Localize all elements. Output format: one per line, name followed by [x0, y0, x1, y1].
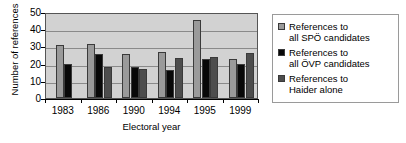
x-tick-mark-3: [152, 99, 153, 103]
bar-1999-series-1: [237, 64, 245, 98]
y-axis-tick-labels: 01020304050: [17, 13, 41, 99]
bar-group-1983: [46, 14, 82, 98]
y-tick-label-50: 50: [17, 8, 41, 18]
bar-group-1994: [153, 14, 189, 98]
bar-1994-series-1: [166, 70, 174, 98]
bar-1994-series-0: [158, 52, 166, 98]
x-tick-mark-2: [116, 99, 117, 103]
legend-item-1[interactable]: References toall ÖVP candidates: [278, 47, 394, 69]
bar-1995-series-1: [202, 59, 210, 98]
bar-group-1999: [224, 14, 260, 98]
x-tick-mark-4: [187, 99, 188, 103]
y-tick-mark-20: [41, 65, 45, 66]
x-tick-label-1999: 1999: [218, 105, 262, 116]
legend-label-0: References toall SPÖ candidates: [289, 21, 370, 43]
y-tick-mark-50: [41, 13, 45, 14]
bar-group-1995: [188, 14, 224, 98]
bar-group-1986: [82, 14, 118, 98]
bar-chart-figure: Number of references 01020304050 Elector…: [0, 0, 406, 143]
legend-label-1: References toall ÖVP candidates: [289, 47, 370, 69]
legend-item-0[interactable]: References toall SPÖ candidates: [278, 21, 394, 43]
legend-swatch-icon-1: [278, 49, 285, 56]
legend-label-2: References toHaider alone: [289, 73, 348, 95]
bars-layer: [46, 14, 257, 98]
bar-group-1990: [117, 14, 153, 98]
legend-swatch-icon-0: [278, 23, 285, 30]
y-tick-label-30: 30: [17, 42, 41, 52]
plot-area: [45, 13, 258, 99]
x-tick-mark-0: [45, 99, 46, 103]
bar-1990-series-2: [139, 69, 147, 98]
bar-1999-series-0: [229, 59, 237, 98]
legend-item-2[interactable]: References toHaider alone: [278, 73, 394, 95]
y-tick-mark-0: [41, 99, 45, 100]
bar-1986-series-0: [87, 44, 95, 98]
bar-1990-series-0: [122, 54, 130, 98]
x-tick-mark-1: [81, 99, 82, 103]
y-tick-mark-10: [41, 82, 45, 83]
x-axis-title: Electoral year: [45, 121, 258, 132]
bar-1999-series-2: [246, 53, 254, 98]
bar-1983-series-1: [64, 64, 72, 98]
bar-1986-series-2: [104, 67, 112, 98]
y-tick-label-10: 10: [17, 77, 41, 87]
x-tick-mark-6: [258, 99, 259, 103]
y-tick-label-0: 0: [17, 94, 41, 104]
x-tick-mark-5: [223, 99, 224, 103]
bar-1994-series-2: [175, 58, 183, 98]
y-tick-mark-40: [41, 30, 45, 31]
legend-swatch-icon-2: [278, 75, 285, 82]
chart-legend: References toall SPÖ candidatesReference…: [272, 14, 399, 103]
y-tick-mark-30: [41, 47, 45, 48]
bar-1990-series-1: [131, 67, 139, 98]
bar-1995-series-2: [210, 57, 218, 98]
y-tick-label-40: 40: [17, 25, 41, 35]
bar-1986-series-1: [95, 54, 103, 98]
bar-1995-series-0: [193, 20, 201, 98]
bar-1983-series-0: [56, 45, 64, 98]
y-tick-label-20: 20: [17, 60, 41, 70]
